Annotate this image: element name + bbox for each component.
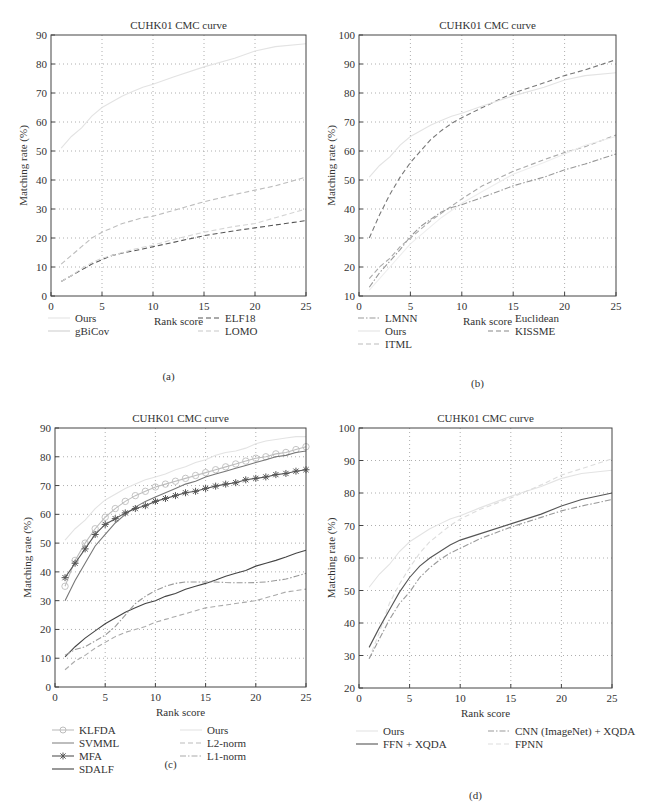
grid: [55, 428, 306, 687]
x-tick-label: 5: [102, 691, 108, 703]
legend: LMNNOursITMLEuclideanKISSME: [358, 312, 559, 350]
x-axis-label: Rank score: [154, 315, 203, 327]
x-tick-label: 5: [99, 300, 105, 312]
y-tick-label: 50: [344, 585, 356, 597]
series-mfa: [65, 470, 306, 578]
x-tick-label: 20: [250, 300, 262, 312]
series-svmml: [65, 451, 306, 601]
y-tick-label: 100: [339, 29, 356, 41]
y-tick-label: 80: [344, 487, 356, 499]
x-tick-label: 20: [250, 691, 262, 703]
y-tick-label: 70: [344, 520, 356, 532]
legend-label: FFN + XQDA: [383, 738, 447, 750]
legend-label: Euclidean: [515, 312, 559, 324]
y-tick-label: 90: [344, 58, 356, 70]
series-sdalf: [65, 550, 306, 656]
chart-title: CUHK01 CMC curve: [132, 412, 229, 424]
series-lomo: [61, 209, 306, 282]
series-group: [369, 60, 616, 291]
panel-caption: (a): [162, 370, 175, 383]
x-tick-label: 5: [408, 300, 414, 312]
chart-title: CUHK01 CMC curve: [437, 412, 534, 424]
y-tick-label: 80: [40, 451, 52, 463]
y-tick-label: 20: [344, 682, 356, 694]
x-tick-label: 0: [356, 300, 362, 312]
panel-caption: (c): [164, 758, 177, 771]
x-tick-label: 15: [199, 300, 211, 312]
legend-label: ITML: [385, 338, 412, 350]
x-tick-label: 10: [455, 692, 467, 704]
grid: [359, 428, 612, 688]
y-tick-label: 90: [36, 29, 48, 41]
x-tick-label: 20: [559, 300, 571, 312]
y-tick-label: 40: [36, 174, 48, 186]
y-tick-label: 90: [344, 455, 356, 467]
x-tick-label: 15: [200, 691, 212, 703]
series-l2-norm: [65, 589, 306, 670]
x-axis-label: Rank score: [156, 706, 205, 718]
chart-panel-a: 05101520250102030405060708090CUHK01 CMC …: [17, 19, 312, 383]
y-tick-label: 80: [36, 58, 48, 70]
plot-frame: [359, 35, 616, 296]
x-tick-label: 10: [456, 300, 468, 312]
legend: KLFDASVMMLMFASDALFOursL2-normL1-norm: [52, 724, 247, 775]
y-tick-label: 30: [344, 232, 356, 244]
y-tick-label: 60: [344, 552, 356, 564]
y-tick-label: 40: [344, 617, 356, 629]
series-ours: [369, 470, 612, 587]
y-axis-label: Matching rate (%): [325, 517, 338, 598]
y-tick-label: 0: [42, 290, 48, 302]
chart-panel-d: 05101520252030405060708090100CUHK01 CMC …: [325, 412, 635, 802]
series-fpnn: [369, 459, 612, 659]
series-ours: [61, 44, 306, 148]
panel-caption: (d): [469, 789, 482, 802]
series-klfda: [65, 447, 306, 587]
x-tick-label: 0: [48, 300, 54, 312]
legend-label: FPNN: [515, 738, 543, 750]
y-tick-label: 40: [40, 566, 52, 578]
series-itml: [369, 135, 616, 279]
y-tick-label: 70: [36, 87, 48, 99]
y-tick-label: 50: [36, 145, 48, 157]
y-tick-label: 60: [36, 116, 48, 128]
y-tick-label: 10: [40, 652, 52, 664]
x-tick-label: 25: [301, 691, 313, 703]
y-tick-label: 80: [344, 87, 356, 99]
legend-label: SDALF: [79, 763, 114, 775]
plot-frame: [359, 428, 612, 688]
y-axis-label: Matching rate (%): [17, 125, 30, 206]
chart-title: CUHK01 CMC curve: [439, 19, 536, 31]
legend-label: KISSME: [515, 325, 556, 337]
legend-label: Ours: [75, 312, 96, 324]
series-gbicov: [61, 177, 306, 264]
series-group: [369, 459, 612, 659]
x-tick-label: 10: [148, 300, 160, 312]
y-tick-label: 20: [344, 261, 356, 273]
chart-title: CUHK01 CMC curve: [130, 19, 227, 31]
plot-frame: [55, 428, 306, 687]
plot-frame: [51, 35, 306, 296]
y-tick-label: 10: [36, 261, 48, 273]
legend-label: CNN (ImageNet) + XQDA: [515, 725, 635, 738]
legend-label: Ours: [207, 724, 228, 736]
y-axis-label: Matching rate (%): [325, 125, 338, 206]
y-tick-label: 40: [344, 203, 356, 215]
panel-caption: (b): [471, 377, 484, 390]
legend-label: gBiCov: [75, 325, 110, 337]
y-tick-label: 30: [40, 595, 52, 607]
chart-panel-b: 0510152025102030405060708090100CUHK01 CM…: [325, 19, 622, 390]
y-axis-label: Matching rate (%): [21, 517, 34, 598]
legend-label: Ours: [383, 725, 404, 737]
y-tick-label: 10: [344, 290, 356, 302]
series-kissme: [369, 154, 616, 287]
series-l1-norm: [65, 573, 306, 655]
x-axis-label: Rank score: [463, 315, 512, 327]
grid: [359, 35, 616, 296]
legend-label: ELF18: [225, 312, 256, 324]
legend: OursgBiCovELF18LOMO: [48, 312, 257, 337]
x-axis-label: Rank score: [461, 707, 510, 719]
series-group: [62, 437, 310, 670]
y-tick-label: 30: [344, 650, 356, 662]
x-tick-label: 5: [407, 692, 413, 704]
legend-label: LOMO: [225, 325, 257, 337]
